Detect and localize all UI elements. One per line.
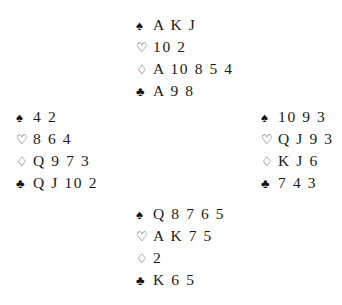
north-diamonds-ranks: A 10 8 5 4 bbox=[153, 58, 234, 80]
north-spades-row: ♠ A K J bbox=[136, 14, 234, 36]
east-diamonds-ranks: K J 6 bbox=[278, 150, 319, 172]
hand-south: ♠ Q 8 7 6 5 ♡ A K 7 5 ♢ 2 ♣ K 6 5 bbox=[136, 203, 225, 291]
south-hearts-ranks: A K 7 5 bbox=[153, 225, 213, 247]
heart-icon: ♡ bbox=[261, 129, 274, 151]
south-hearts-row: ♡ A K 7 5 bbox=[136, 225, 225, 247]
spade-icon: ♠ bbox=[16, 107, 29, 129]
west-hearts-ranks: 8 6 4 bbox=[33, 128, 72, 150]
west-clubs-row: ♣ Q J 10 2 bbox=[16, 172, 98, 194]
south-spades-ranks: Q 8 7 6 5 bbox=[153, 203, 225, 225]
east-diamonds-row: ♢ K J 6 bbox=[261, 150, 334, 172]
club-icon: ♣ bbox=[136, 81, 149, 103]
west-diamonds-ranks: Q 9 7 3 bbox=[33, 150, 90, 172]
north-hearts-row: ♡ 10 2 bbox=[136, 36, 234, 58]
heart-icon: ♡ bbox=[16, 129, 29, 151]
spade-icon: ♠ bbox=[136, 15, 149, 37]
diamond-icon: ♢ bbox=[16, 151, 29, 173]
south-clubs-row: ♣ K 6 5 bbox=[136, 269, 225, 291]
east-hearts-row: ♡ Q J 9 3 bbox=[261, 128, 334, 150]
spade-icon: ♠ bbox=[261, 107, 274, 129]
club-icon: ♣ bbox=[16, 173, 29, 195]
south-diamonds-row: ♢ 2 bbox=[136, 247, 225, 269]
club-icon: ♣ bbox=[261, 173, 274, 195]
east-spades-ranks: 10 9 3 bbox=[278, 106, 326, 128]
west-hearts-row: ♡ 8 6 4 bbox=[16, 128, 98, 150]
north-clubs-ranks: A 9 8 bbox=[153, 80, 195, 102]
south-clubs-ranks: K 6 5 bbox=[153, 269, 195, 291]
heart-icon: ♡ bbox=[136, 226, 149, 248]
diamond-icon: ♢ bbox=[261, 151, 274, 173]
north-hearts-ranks: 10 2 bbox=[153, 36, 187, 58]
east-clubs-row: ♣ 7 4 3 bbox=[261, 172, 334, 194]
club-icon: ♣ bbox=[136, 270, 149, 292]
south-spades-row: ♠ Q 8 7 6 5 bbox=[136, 203, 225, 225]
east-spades-row: ♠ 10 9 3 bbox=[261, 106, 334, 128]
north-clubs-row: ♣ A 9 8 bbox=[136, 80, 234, 102]
bridge-deal-diagram: ♠ A K J ♡ 10 2 ♢ A 10 8 5 4 ♣ A 9 8 ♠ 4 … bbox=[0, 0, 342, 305]
spade-icon: ♠ bbox=[136, 204, 149, 226]
hand-east: ♠ 10 9 3 ♡ Q J 9 3 ♢ K J 6 ♣ 7 4 3 bbox=[261, 106, 334, 194]
west-diamonds-row: ♢ Q 9 7 3 bbox=[16, 150, 98, 172]
hand-north: ♠ A K J ♡ 10 2 ♢ A 10 8 5 4 ♣ A 9 8 bbox=[136, 14, 234, 102]
hand-west: ♠ 4 2 ♡ 8 6 4 ♢ Q 9 7 3 ♣ Q J 10 2 bbox=[16, 106, 98, 194]
diamond-icon: ♢ bbox=[136, 248, 149, 270]
west-spades-ranks: 4 2 bbox=[33, 106, 57, 128]
west-spades-row: ♠ 4 2 bbox=[16, 106, 98, 128]
west-clubs-ranks: Q J 10 2 bbox=[33, 172, 98, 194]
east-clubs-ranks: 7 4 3 bbox=[278, 172, 317, 194]
heart-icon: ♡ bbox=[136, 37, 149, 59]
east-hearts-ranks: Q J 9 3 bbox=[278, 128, 334, 150]
north-spades-ranks: A K J bbox=[153, 14, 196, 36]
diamond-icon: ♢ bbox=[136, 59, 149, 81]
north-diamonds-row: ♢ A 10 8 5 4 bbox=[136, 58, 234, 80]
south-diamonds-ranks: 2 bbox=[153, 247, 162, 269]
